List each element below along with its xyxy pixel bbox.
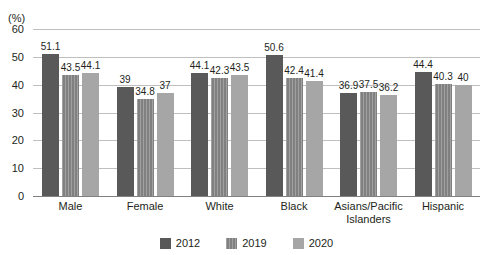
bar-value-label: 43.5 xyxy=(224,63,256,73)
bar-value-label: 50.6 xyxy=(258,43,290,53)
cropped-title xyxy=(0,0,493,7)
bar-value-label: 44.1 xyxy=(75,61,107,71)
bar xyxy=(117,87,134,196)
bar xyxy=(157,93,174,196)
chart-legend: 201220192020 xyxy=(0,236,493,251)
y-axis-tick-label: 50 xyxy=(0,52,24,63)
bar xyxy=(306,81,323,196)
bar-value-label: 37 xyxy=(149,81,181,91)
bar-value-label: 41.4 xyxy=(298,69,330,79)
bar xyxy=(380,95,397,196)
y-axis-tick-labels: 0102030405060 xyxy=(0,29,28,196)
bar-value-label: 36.2 xyxy=(373,83,405,93)
bar xyxy=(137,99,154,196)
bar xyxy=(82,73,99,196)
legend-color-swatch xyxy=(226,238,237,249)
legend-item[interactable]: 2020 xyxy=(293,238,333,249)
legend-item[interactable]: 2019 xyxy=(226,238,266,249)
y-axis-tick-label: 10 xyxy=(0,163,24,174)
bar xyxy=(455,85,472,196)
y-axis-tick-label: 40 xyxy=(0,80,24,91)
x-axis-category-labels: MaleFemaleWhiteBlackAsians/PacificIsland… xyxy=(33,200,480,234)
bars-layer: 51.13944.150.636.944.443.534.842.342.437… xyxy=(33,29,480,196)
bar xyxy=(211,78,228,196)
bar xyxy=(286,78,303,196)
bar-value-label: 40 xyxy=(447,73,479,83)
x-axis-category-label-line: Hispanic xyxy=(388,200,493,213)
legend-label: 2020 xyxy=(309,238,333,249)
x-axis-baseline xyxy=(33,196,480,197)
bar xyxy=(415,72,432,196)
y-axis-tick-label: 20 xyxy=(0,135,24,146)
bar-value-label: 44.4 xyxy=(407,60,439,70)
bar xyxy=(435,84,452,196)
x-axis-category-label: Hispanic xyxy=(388,200,493,213)
bar xyxy=(62,75,79,196)
legend-label: 2019 xyxy=(242,238,266,249)
bar-chart: (%) 0102030405060 51.13944.150.636.944.4… xyxy=(0,0,493,255)
bar xyxy=(360,92,377,196)
bar xyxy=(191,73,208,196)
bar xyxy=(340,93,357,196)
legend-color-swatch xyxy=(293,238,304,249)
bar xyxy=(231,75,248,196)
legend-item[interactable]: 2012 xyxy=(160,238,200,249)
bar xyxy=(42,54,59,196)
y-axis-tick-label: 60 xyxy=(0,24,24,35)
bar xyxy=(266,55,283,196)
legend-color-swatch xyxy=(160,238,171,249)
bar-value-label: 39 xyxy=(109,75,141,85)
y-axis-tick-label: 30 xyxy=(0,108,24,119)
bar-value-label: 51.1 xyxy=(35,42,67,52)
x-axis-category-label-line: Islanders xyxy=(314,213,424,226)
legend-label: 2012 xyxy=(176,238,200,249)
